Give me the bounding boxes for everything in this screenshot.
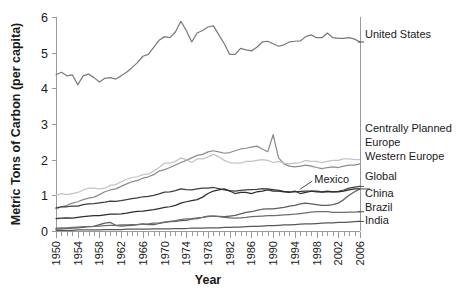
x-tick-label: 1986 (245, 241, 257, 265)
y-tick-label: 0 (41, 225, 48, 239)
legend-label-centrally-planned: Centrally Planned (365, 122, 452, 134)
x-axis: 1950195419581962196619701974197819821986… (50, 232, 366, 266)
x-tick-label: 1966 (137, 241, 149, 265)
x-tick-label: 1970 (159, 241, 171, 265)
legend: United StatesCentrally PlannedEuropeWest… (358, 17, 452, 231)
legend-label-europe: Europe (365, 136, 400, 148)
series-lines (56, 21, 360, 230)
annotation-leader-mexico (300, 181, 312, 189)
legend-label-global: Global (365, 170, 397, 182)
legend-label-western-europe: Western Europe (365, 150, 444, 162)
y-tick-label: 3 (41, 118, 48, 132)
legend-label-brazil: Brazil (365, 201, 393, 213)
y-tick-label: 6 (41, 11, 48, 25)
y-axis-title: Metric Tons of Carbon (per capita) (9, 23, 23, 226)
chart-svg: Metric Tons of Carbon (per capita) Year … (0, 0, 468, 296)
legend-label-india: India (365, 214, 390, 226)
series-line-united-states (56, 21, 360, 84)
x-tick-label: 1962 (115, 241, 127, 265)
y-tick-label: 2 (41, 154, 48, 168)
legend-label-united-states: United States (365, 28, 432, 40)
x-tick-label: 1950 (50, 241, 62, 265)
y-axis: 0123456 (41, 11, 56, 239)
x-axis-title: Year (195, 273, 222, 287)
series-line-centrally-planned-europe (56, 135, 360, 209)
series-line-brazil (56, 212, 360, 228)
y-tick-label: 1 (41, 189, 48, 203)
x-tick-label: 1978 (202, 241, 214, 265)
carbon-per-capita-line-chart: Metric Tons of Carbon (per capita) Year … (0, 0, 468, 296)
x-tick-label: 1994 (289, 241, 301, 265)
x-tick-label: 1954 (72, 241, 84, 265)
x-tick-label: 1958 (93, 241, 105, 265)
y-tick-label: 4 (41, 82, 48, 96)
annotations: Mexico (300, 173, 349, 189)
x-tick-label: 1998 (311, 241, 323, 265)
x-tick-label: 1982 (224, 241, 236, 265)
x-tick-label: 1990 (267, 241, 279, 265)
y-tick-label: 5 (41, 47, 48, 61)
annotation-label-mexico: Mexico (314, 173, 349, 185)
x-tick-label: 2006 (354, 241, 366, 265)
x-tick-label: 1974 (180, 241, 192, 265)
x-tick-label: 2002 (332, 241, 344, 265)
